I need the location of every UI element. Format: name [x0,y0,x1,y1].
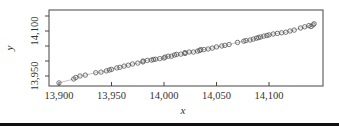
x-tick-label: 14,000 [150,90,179,101]
y-axis-title: y [3,45,15,51]
plot-frame [49,10,323,86]
x-tick-label: 14,050 [202,90,231,101]
x-tick-label: 14,100 [255,90,284,101]
bottom-border-bar [0,123,339,126]
x-tick-label: 13,950 [97,90,126,101]
data-points [57,22,317,86]
y-axis: 13,95014,100 [29,16,49,90]
x-tick-label: 13,900 [45,90,74,101]
scatter-plot: 13,90013,95014,00014,05014,100 13,95014,… [0,0,339,126]
x-axis-title: x [180,104,186,116]
y-tick-label: 13,950 [29,62,40,91]
x-axis: 13,90013,95014,00014,05014,100 [45,82,284,101]
y-tick-label: 14,100 [29,17,40,46]
